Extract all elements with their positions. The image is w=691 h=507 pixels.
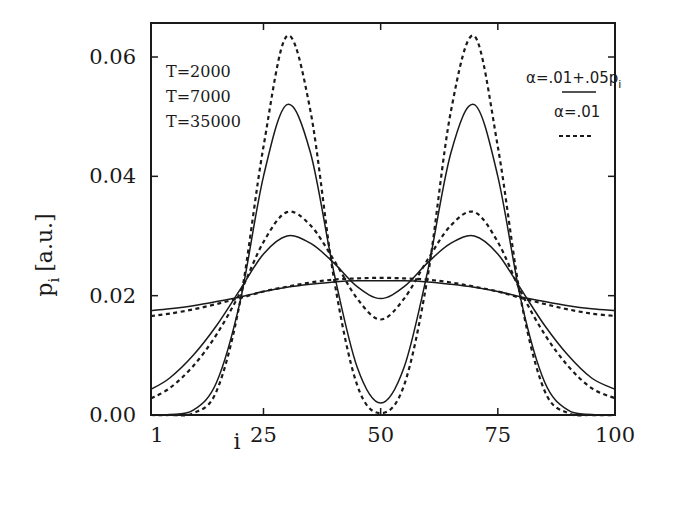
y-tick-label: 0.04 bbox=[89, 164, 136, 188]
y-axis-label-units: [a.u.] bbox=[32, 213, 57, 271]
x-tick-label: 25 bbox=[250, 423, 277, 447]
line-chart: 0.000.020.040.06 1255075100 i pi[a.u.] T… bbox=[0, 0, 691, 507]
temperature-annotations: T=2000 T=7000 T=35000 bbox=[166, 62, 241, 131]
y-axis-label-sub: i bbox=[45, 278, 63, 283]
y-tick-label: 0.00 bbox=[89, 403, 136, 427]
x-tick-label: 1 bbox=[150, 423, 163, 447]
curve-1 bbox=[151, 278, 615, 316]
curve-0 bbox=[151, 281, 615, 311]
legend: α=.01+.05pi α=.01 bbox=[526, 69, 621, 136]
y-axis-label: pi[a.u.] bbox=[32, 213, 63, 296]
y-axis-label-main: p bbox=[32, 283, 57, 297]
x-tick-label: 75 bbox=[484, 423, 511, 447]
x-tick-label: 50 bbox=[367, 423, 394, 447]
x-tick-labels: 1255075100 bbox=[150, 423, 635, 447]
x-tick-label: 100 bbox=[595, 423, 635, 447]
y-tick-labels: 0.000.020.040.06 bbox=[89, 45, 136, 427]
y-tick-label: 0.02 bbox=[89, 284, 136, 308]
legend-solid-label: α=.01+.05pi bbox=[526, 69, 621, 91]
y-tick-label: 0.06 bbox=[89, 45, 136, 69]
curve-2 bbox=[151, 236, 615, 390]
annotation-t35000: T=35000 bbox=[166, 112, 241, 131]
svg-text:pi[a.u.]: pi[a.u.] bbox=[32, 213, 63, 296]
annotation-t7000: T=7000 bbox=[166, 87, 231, 106]
annotation-t2000: T=2000 bbox=[166, 62, 231, 81]
curve-4 bbox=[151, 104, 615, 415]
x-axis-label: i bbox=[233, 429, 240, 454]
legend-dashed-label: α=.01 bbox=[554, 103, 600, 121]
